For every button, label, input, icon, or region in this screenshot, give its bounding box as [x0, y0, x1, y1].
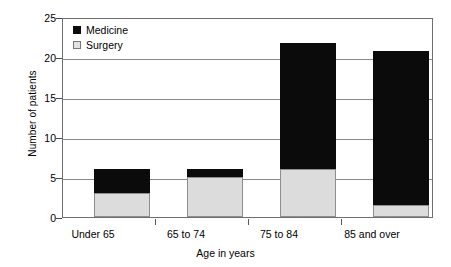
legend: Medicine Surgery — [73, 23, 128, 53]
bar-segment-medicine-65-to-74 — [187, 169, 243, 177]
y-tick-label-5: 5 — [16, 172, 56, 184]
bar-segment-surgery-65-to-74 — [187, 177, 243, 217]
bar-segment-medicine-85-and-over — [373, 51, 429, 205]
y-tick-mark-0 — [56, 218, 62, 219]
x-tick-mark-2 — [248, 219, 249, 225]
x-tick-mark-3 — [341, 219, 342, 225]
bar-segment-medicine-75-to-84 — [280, 43, 336, 169]
y-tick-label-20: 20 — [16, 52, 56, 64]
bar-segment-surgery-75-to-84 — [280, 169, 336, 217]
legend-label-medicine: Medicine — [86, 24, 128, 36]
x-axis-title: Age in years — [0, 247, 451, 259]
y-tick-label-10: 10 — [16, 132, 56, 144]
bar-group-under-65 — [94, 169, 150, 217]
y-tick-label-0: 0 — [16, 212, 56, 224]
legend-item-medicine: Medicine — [73, 23, 128, 37]
legend-swatch-medicine-icon — [73, 26, 81, 34]
bar-group-65-to-74 — [187, 169, 243, 217]
x-tick-mark-1 — [155, 219, 156, 225]
bar-group-75-to-84 — [280, 43, 336, 217]
bar-segment-surgery-under-65 — [94, 193, 150, 217]
y-tick-label-15: 15 — [16, 92, 56, 104]
legend-label-surgery: Surgery — [86, 39, 123, 51]
plot-area: Medicine Surgery — [62, 18, 433, 218]
y-tick-label-25: 25 — [16, 12, 56, 24]
legend-item-surgery: Surgery — [73, 38, 128, 52]
bar-segment-surgery-85-and-over — [373, 205, 429, 217]
x-tick-label-85-and-over: 85 and over — [317, 228, 427, 240]
stacked-bar-chart: Number of patients 25 20 15 10 5 0 Medic… — [0, 0, 451, 267]
bar-group-85-and-over — [373, 51, 429, 217]
bar-segment-medicine-under-65 — [94, 169, 150, 193]
legend-swatch-surgery-icon — [73, 41, 81, 49]
